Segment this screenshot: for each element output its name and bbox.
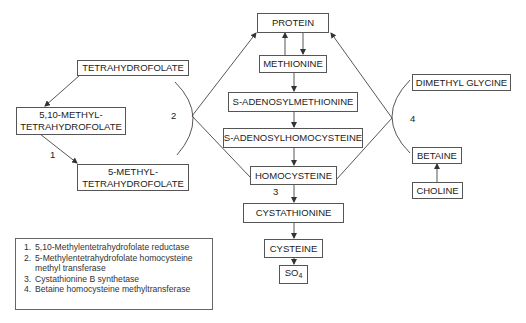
node-methylene-thf-line1: 5,10-METHYL- bbox=[39, 109, 102, 121]
node-cystathionine: CYSTATHIONINE bbox=[243, 203, 344, 223]
thf-to-methylene-thf-arrow bbox=[45, 75, 80, 106]
node-sam-label: S-ADENOSYLMETHIONINE bbox=[233, 96, 354, 108]
node-homocysteine: HOMOCYSTEINE bbox=[250, 166, 337, 185]
node-methyl-thf-line1: 5-METHYL- bbox=[108, 166, 158, 178]
legend-item: 4. Betaine homocysteine methyltransferas… bbox=[24, 284, 208, 295]
node-so4-label: SO4 bbox=[285, 267, 303, 282]
node-methyl-thf-line2: TETRAHYDROFOLATE bbox=[82, 178, 184, 190]
enzyme-legend: 1. 5,10-Methylentetrahydrofolate reducta… bbox=[15, 238, 213, 310]
node-betaine-label: BETAINE bbox=[417, 150, 457, 162]
node-methionine: METHIONINE bbox=[259, 55, 327, 73]
node-sah-label: S-ADENOSYLHOMOCYSTEINE bbox=[224, 132, 362, 144]
node-choline-label: CHOLINE bbox=[416, 185, 458, 197]
enzyme-label-1: 1 bbox=[50, 149, 55, 160]
node-homocysteine-label: HOMOCYSTEINE bbox=[255, 170, 332, 182]
node-cystathionine-label: CYSTATHIONINE bbox=[256, 207, 332, 219]
node-s-adenosylhomocysteine: S-ADENOSYLHOMOCYSTEINE bbox=[223, 128, 363, 148]
node-cysteine: CYSTEINE bbox=[264, 239, 323, 258]
node-thf-label: TETRAHYDROFOLATE bbox=[82, 62, 184, 74]
node-tetrahydrofolate: TETRAHYDROFOLATE bbox=[77, 60, 189, 76]
node-protein: PROTEIN bbox=[257, 13, 329, 33]
enzyme-label-4: 4 bbox=[410, 113, 415, 124]
methylene-to-methyl-thf-arrow bbox=[40, 134, 77, 163]
enzyme-2-arc bbox=[175, 82, 193, 155]
node-dimethyl-glycine-label: DIMETHYL GLYCINE bbox=[416, 77, 507, 89]
legend-item: 2. 5-Methylentetrahydrofolate homocystei… bbox=[24, 253, 208, 274]
node-betaine: BETAINE bbox=[412, 147, 462, 164]
node-so4: SO4 bbox=[279, 265, 308, 284]
enzyme-4-arc bbox=[392, 80, 410, 153]
node-dimethyl-glycine: DIMETHYL GLYCINE bbox=[412, 74, 511, 91]
node-s-adenosylmethionine: S-ADENOSYLMETHIONINE bbox=[228, 92, 358, 112]
legend-item: 1. 5,10-Methylentetrahydrofolate reducta… bbox=[24, 242, 208, 253]
node-choline: CHOLINE bbox=[412, 182, 463, 199]
node-methionine-label: METHIONINE bbox=[263, 58, 323, 70]
node-protein-label: PROTEIN bbox=[272, 17, 314, 29]
enzyme-label-3: 3 bbox=[273, 186, 278, 197]
legend-item: 3. Cystathionine B synthetase bbox=[24, 274, 208, 285]
node-methylene-thf-line2: TETRAHYDROFOLATE bbox=[20, 121, 122, 133]
node-5-10-methylene-thf: 5,10-METHYL- TETRAHYDROFOLATE bbox=[16, 107, 126, 135]
node-5-methyl-thf: 5-METHYL- TETRAHYDROFOLATE bbox=[77, 164, 189, 191]
node-cysteine-label: CYSTEINE bbox=[270, 243, 318, 255]
enzyme-label-2: 2 bbox=[171, 110, 176, 121]
